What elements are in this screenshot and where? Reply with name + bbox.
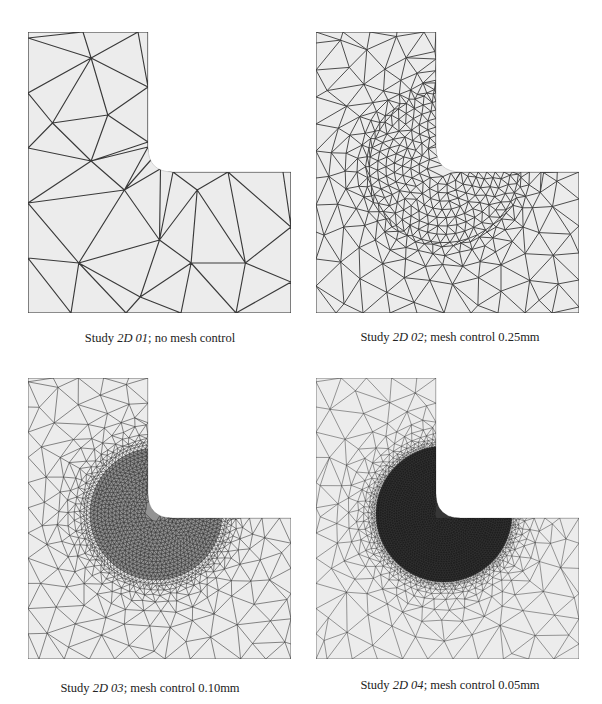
caption-suffix: ; no mesh control: [148, 331, 235, 345]
caption-prefix: Study: [360, 678, 392, 692]
mesh-svg: [316, 32, 579, 313]
caption-2d-04: Study 2D 04; mesh control 0.05mm: [300, 678, 600, 693]
caption-2d-02: Study 2D 02; mesh control 0.25mm: [300, 330, 600, 345]
mesh-panel-2d-04: [316, 378, 579, 659]
mesh-panel-2d-03: [28, 378, 291, 659]
caption-2d-01: Study 2D 01; no mesh control: [10, 331, 310, 346]
caption-study-id: 2D 02: [393, 330, 424, 344]
caption-study-id: 2D 01: [117, 331, 148, 345]
mesh-panel-2d-02: [316, 32, 579, 313]
clipped-text-fragment: [130, 0, 250, 4]
caption-study-id: 2D 03: [93, 681, 124, 695]
mesh-svg: [316, 378, 579, 659]
caption-prefix: Study: [60, 681, 92, 695]
caption-suffix: ; mesh control 0.05mm: [424, 678, 540, 692]
caption-prefix: Study: [360, 330, 392, 344]
mesh-panel-2d-01: [28, 32, 291, 313]
caption-2d-03: Study 2D 03; mesh control 0.10mm: [0, 681, 300, 696]
caption-prefix: Study: [85, 331, 117, 345]
mesh-svg: [28, 378, 291, 659]
mesh-svg: [28, 32, 291, 313]
caption-suffix: ; mesh control 0.10mm: [124, 681, 240, 695]
caption-study-id: 2D 04: [393, 678, 424, 692]
caption-suffix: ; mesh control 0.25mm: [424, 330, 540, 344]
